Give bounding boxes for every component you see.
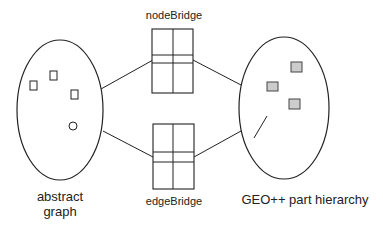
abstract-graph-label-line1: abstract <box>28 190 92 205</box>
geo-hierarchy-label: GEO++ part hierarchy <box>232 193 378 208</box>
graph-edge-icon <box>69 122 77 130</box>
graph-node-icon <box>71 90 78 99</box>
node-bridge-label: nodeBridge <box>142 9 206 22</box>
geo-edge-icon <box>254 116 267 138</box>
graph-node-icon <box>30 81 37 90</box>
abstract-graph-label: abstract graph <box>28 190 92 220</box>
geo-part-icon <box>267 82 278 91</box>
diagram: nodeBridge edgeBridge abstract graph GEO… <box>0 0 383 226</box>
geo-part-icon <box>291 62 302 72</box>
edge-bridge-table <box>153 124 194 189</box>
edge-bridge-label: edgeBridge <box>142 195 206 208</box>
connector-edgebridge-geo <box>194 131 241 157</box>
abstract-graph <box>17 40 103 180</box>
connector-graph-edgebridge <box>103 131 153 157</box>
graph-node-icon <box>50 71 57 80</box>
geo-part-icon <box>289 99 300 109</box>
node-bridge-table <box>152 29 193 93</box>
connector-nodebridge-geo <box>193 60 241 85</box>
geo-part-hierarchy <box>239 37 329 179</box>
connector-graph-nodebridge <box>101 60 153 89</box>
abstract-graph-label-line2: graph <box>28 205 92 220</box>
